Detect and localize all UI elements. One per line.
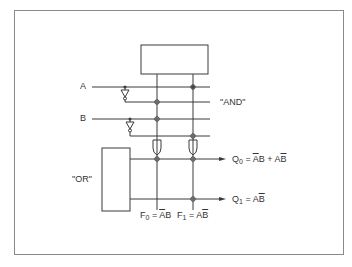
arrow-q0-icon xyxy=(219,157,226,161)
and-plane-box xyxy=(141,45,208,74)
product-term-f1-equation: F1 = AB xyxy=(177,211,208,221)
inverter-a-icon xyxy=(121,90,129,102)
product-term-f0-equation: F0 = AB xyxy=(140,211,171,221)
inverter-b-icon xyxy=(126,122,134,136)
pla-diagram xyxy=(0,0,352,267)
or-plane-label: "OR" xyxy=(72,175,92,184)
arrow-q1-icon xyxy=(219,197,226,201)
output-q0-equation: Q0 = AB + AB xyxy=(232,155,287,165)
input-label-a: A xyxy=(80,82,86,91)
input-label-b: B xyxy=(80,114,86,123)
or-plane-box xyxy=(102,148,130,211)
and-plane-label: "AND" xyxy=(220,98,245,107)
output-q1-equation: Q1 = AB xyxy=(232,195,265,205)
